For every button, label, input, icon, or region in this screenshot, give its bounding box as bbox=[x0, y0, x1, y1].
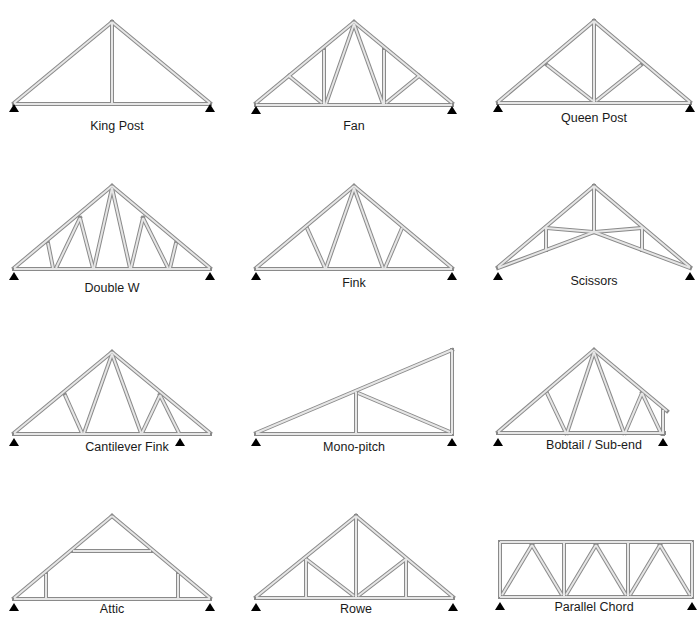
truss-member-fill bbox=[358, 393, 450, 432]
support-triangle-icon bbox=[9, 272, 19, 280]
truss-member-fill bbox=[596, 545, 626, 595]
truss-member-fill bbox=[170, 243, 176, 268]
truss-member-fill bbox=[547, 65, 593, 101]
truss-label-parallel-chord: Parallel Chord bbox=[484, 600, 700, 614]
truss-label-cantilever-fink: Cantilever Fink bbox=[17, 440, 237, 454]
truss-label-queen-post: Queen Post bbox=[484, 111, 700, 125]
truss-member-fill bbox=[307, 228, 325, 268]
truss-member-fill bbox=[625, 393, 642, 433]
truss-member-fill bbox=[112, 22, 210, 103]
truss-member-fill bbox=[502, 545, 532, 595]
truss-member-fill bbox=[131, 218, 143, 268]
truss-member-fill bbox=[65, 395, 82, 433]
truss-rowe bbox=[251, 516, 458, 611]
truss-member-fill bbox=[385, 228, 402, 268]
truss-label-fan: Fan bbox=[244, 119, 464, 133]
truss-queen-post bbox=[493, 21, 695, 112]
truss-member-fill bbox=[112, 516, 210, 598]
truss-double-w bbox=[9, 186, 215, 280]
truss-member-fill bbox=[142, 395, 160, 433]
truss-member-fill bbox=[56, 218, 80, 268]
support-triangle-icon bbox=[251, 106, 261, 114]
truss-fan bbox=[251, 22, 457, 114]
truss-member-fill bbox=[630, 545, 660, 595]
truss-king-post bbox=[9, 22, 215, 112]
truss-diagram-canvas bbox=[0, 0, 700, 623]
truss-attic bbox=[9, 516, 215, 611]
truss-member-fill bbox=[306, 559, 354, 596]
truss-bobtail-sub-end bbox=[493, 350, 668, 446]
truss-member-fill bbox=[547, 393, 566, 433]
truss-cantilever-fink bbox=[9, 352, 210, 446]
truss-scissors bbox=[493, 186, 695, 280]
truss-member-fill bbox=[143, 218, 168, 268]
truss-member-fill bbox=[594, 186, 690, 267]
truss-member-fill bbox=[386, 76, 419, 103]
support-triangle-icon bbox=[447, 106, 457, 114]
truss-member-fill bbox=[358, 559, 406, 596]
truss-label-mono-pitch: Mono-pitch bbox=[244, 440, 464, 454]
truss-member-fill bbox=[566, 545, 596, 595]
truss-label-scissors: Scissors bbox=[484, 274, 700, 288]
truss-member-fill bbox=[596, 65, 641, 101]
truss-label-fink: Fink bbox=[244, 276, 464, 290]
truss-member-fill bbox=[498, 186, 594, 267]
truss-label-king-post: King Post bbox=[7, 119, 227, 133]
truss-mono-pitch bbox=[251, 350, 457, 446]
support-triangle-icon bbox=[205, 272, 215, 280]
truss-member-fill bbox=[532, 545, 562, 595]
truss-member-fill bbox=[14, 22, 112, 103]
truss-label-rowe: Rowe bbox=[246, 602, 466, 616]
truss-member-fill bbox=[289, 76, 322, 103]
truss-member-fill bbox=[14, 516, 112, 598]
truss-member-fill bbox=[660, 545, 690, 595]
truss-label-double-w: Double W bbox=[2, 281, 222, 295]
truss-fink bbox=[251, 186, 457, 280]
truss-label-attic: Attic bbox=[2, 602, 222, 616]
truss-label-bobtail-sub-end: Bobtail / Sub-end bbox=[484, 438, 700, 452]
truss-member-fill bbox=[80, 218, 93, 268]
